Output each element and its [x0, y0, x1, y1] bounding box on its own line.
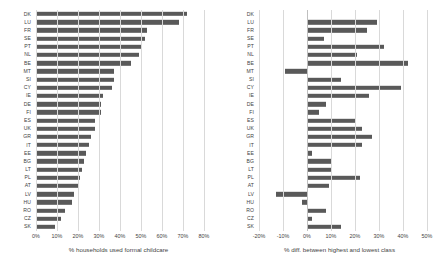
bar-track: [36, 125, 223, 133]
category-label: IE: [223, 93, 259, 98]
category-label: UK: [223, 126, 259, 131]
category-label: LU: [0, 20, 36, 25]
category-label: DK: [223, 12, 259, 17]
bar-row: BE: [223, 59, 446, 67]
gridline: [307, 10, 308, 231]
bar: [307, 28, 367, 32]
category-label: SI: [223, 77, 259, 82]
bar: [36, 167, 82, 171]
category-label: SE: [223, 36, 259, 41]
category-label: LU: [223, 20, 259, 25]
bar-row: IT: [223, 141, 446, 149]
bar-track: [259, 35, 446, 43]
category-label: RO: [223, 208, 259, 213]
left-x-axis-title: % households used formal childcare: [0, 246, 223, 253]
category-label: GR: [223, 134, 259, 139]
category-label: EE: [0, 151, 36, 156]
x-tick-label: 40%: [398, 233, 409, 239]
category-label: CZ: [223, 216, 259, 221]
bar: [307, 110, 319, 114]
bar-track: [36, 51, 223, 59]
bar: [307, 53, 357, 57]
category-label: LV: [0, 192, 36, 197]
gridline: [120, 10, 121, 231]
bar: [36, 200, 72, 204]
bar: [36, 45, 141, 49]
bar-track: [259, 100, 446, 108]
bar: [36, 118, 95, 122]
bar-row: UK: [223, 125, 446, 133]
bar-track: [259, 133, 446, 141]
bar: [307, 208, 326, 212]
category-label: FR: [0, 28, 36, 33]
bar-track: [259, 116, 446, 124]
x-tick-label: 80%: [199, 233, 210, 239]
bar-row: PL: [223, 174, 446, 182]
category-label: SI: [0, 77, 36, 82]
bar-track: [36, 215, 223, 223]
bar-track: [36, 108, 223, 116]
x-tick-label: 30%: [374, 233, 385, 239]
x-tick-label: -20%: [253, 233, 266, 239]
category-label: FI: [223, 110, 259, 115]
bar-track: [259, 18, 446, 26]
gridline: [36, 10, 37, 231]
bar-track: [259, 141, 446, 149]
category-label: HU: [223, 200, 259, 205]
bar: [307, 20, 377, 24]
gridline: [99, 10, 100, 231]
category-label: BE: [0, 61, 36, 66]
gridline: [331, 10, 332, 231]
bar-track: [36, 76, 223, 84]
category-label: PL: [0, 175, 36, 180]
bar: [36, 53, 139, 57]
bar-track: [36, 141, 223, 149]
bar-track: [259, 10, 446, 18]
bar-track: [36, 133, 223, 141]
category-label: PT: [0, 44, 36, 49]
bar: [36, 86, 112, 90]
bar-row: BG: [0, 157, 223, 165]
bar-row: DE: [0, 100, 223, 108]
category-label: GR: [0, 134, 36, 139]
bar: [36, 36, 145, 40]
bar-row: DE: [223, 100, 446, 108]
bar-track: [36, 43, 223, 51]
bar-track: [259, 223, 446, 231]
bar-track: [36, 67, 223, 75]
bar-row: CZ: [223, 215, 446, 223]
bar-track: [36, 223, 223, 231]
right-plot-area: DKLUFRSEPTNLBEMTSICYIEDEFIESUKGRITEEBGLT…: [223, 0, 446, 274]
bar-track: [259, 190, 446, 198]
bar-row: GR: [0, 133, 223, 141]
bar: [36, 208, 65, 212]
gridline: [204, 10, 205, 231]
gridline: [379, 10, 380, 231]
bar-track: [36, 116, 223, 124]
x-tick-label: 10%: [52, 233, 63, 239]
x-tick-label: 60%: [157, 233, 168, 239]
bar: [36, 61, 131, 65]
bar: [36, 12, 187, 16]
bar: [36, 225, 55, 229]
bar-track: [259, 76, 446, 84]
bar-row: DK: [223, 10, 446, 18]
gridline: [427, 10, 428, 231]
bar-track: [259, 157, 446, 165]
bar-row: CZ: [0, 215, 223, 223]
gridline: [183, 10, 184, 231]
bar-row: LU: [0, 18, 223, 26]
bar: [36, 28, 147, 32]
bar-row: RO: [0, 207, 223, 215]
category-label: BG: [0, 159, 36, 164]
bar: [307, 94, 369, 98]
category-label: LV: [223, 192, 259, 197]
x-tick-label: 50%: [422, 233, 433, 239]
bar-row: LU: [223, 18, 446, 26]
chart-page: DKLUFRSEPTNLBEMTSICYIEDEFIESUKGRITEEBGLT…: [0, 0, 446, 274]
bar-row: FI: [0, 108, 223, 116]
bar-track: [36, 166, 223, 174]
bar-row: LV: [223, 190, 446, 198]
category-label: ES: [223, 118, 259, 123]
bar-row: BG: [223, 157, 446, 165]
